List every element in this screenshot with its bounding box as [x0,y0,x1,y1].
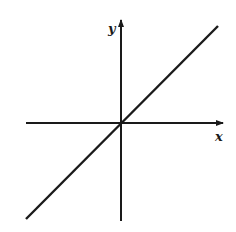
x-axis-label: x [214,129,223,144]
axes-diagram: y x [0,0,236,232]
diagram-canvas: y x [0,0,236,232]
y-axis-label: y [107,21,117,36]
